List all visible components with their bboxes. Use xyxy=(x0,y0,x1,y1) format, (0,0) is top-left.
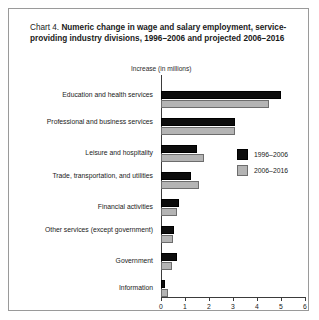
x-tick-label: 0 xyxy=(159,303,163,310)
x-tick xyxy=(233,297,234,301)
x-tick xyxy=(161,297,162,301)
x-tick xyxy=(281,297,282,301)
chart-number: Chart 4. xyxy=(30,23,59,32)
bar-period2 xyxy=(161,208,177,216)
chart-frame: Chart 4. Numeric change in wage and sala… xyxy=(8,8,309,311)
x-tick xyxy=(257,297,258,301)
bar-period2 xyxy=(161,154,204,162)
category-label: Other services (except government) xyxy=(9,226,153,234)
category-label: Leisure and hospitality xyxy=(9,149,153,157)
bar-period2 xyxy=(161,181,199,189)
legend-label: 1996–2006 xyxy=(254,151,288,158)
bar-period1 xyxy=(161,145,197,153)
bar-period1 xyxy=(161,226,174,234)
bar-period1 xyxy=(161,199,179,207)
category-label: Trade, transportation, and utilities xyxy=(9,172,153,180)
x-tick-label: 5 xyxy=(279,303,283,310)
bar-period2 xyxy=(161,289,168,297)
category-label: Government xyxy=(9,257,153,265)
legend-swatch xyxy=(237,165,248,176)
legend-swatch xyxy=(237,149,248,160)
legend-item: 1996–2006 xyxy=(237,149,288,160)
category-label: Professional and business services xyxy=(9,118,153,126)
category-label: Financial activities xyxy=(9,203,153,211)
bar-period1 xyxy=(161,91,281,99)
x-tick xyxy=(305,297,306,301)
x-tick-label: 2 xyxy=(207,303,211,310)
legend-item: 2006–2016 xyxy=(237,165,288,176)
chart-title-text: Numeric change in wage and salary employ… xyxy=(30,23,286,43)
chart-title: Chart 4. Numeric change in wage and sala… xyxy=(30,23,290,44)
bar-period2 xyxy=(161,100,269,108)
x-tick-label: 6 xyxy=(303,303,307,310)
bar-period1 xyxy=(161,280,165,288)
x-tick xyxy=(209,297,210,301)
x-tick-label: 4 xyxy=(255,303,259,310)
bar-period1 xyxy=(161,172,191,180)
bar-period2 xyxy=(161,262,172,270)
bar-period1 xyxy=(161,118,235,126)
legend-label: 2006–2016 xyxy=(254,167,288,174)
bar-period2 xyxy=(161,235,173,243)
category-label: Information xyxy=(9,284,153,292)
x-tick-label: 3 xyxy=(231,303,235,310)
x-tick-label: 1 xyxy=(183,303,187,310)
category-label: Education and health services xyxy=(9,91,153,99)
bar-period2 xyxy=(161,127,235,135)
x-tick xyxy=(185,297,186,301)
legend: 1996–20062006–2016 xyxy=(237,149,288,181)
bar-period1 xyxy=(161,253,177,261)
axis-note: Increase (in millions) xyxy=(131,65,191,72)
